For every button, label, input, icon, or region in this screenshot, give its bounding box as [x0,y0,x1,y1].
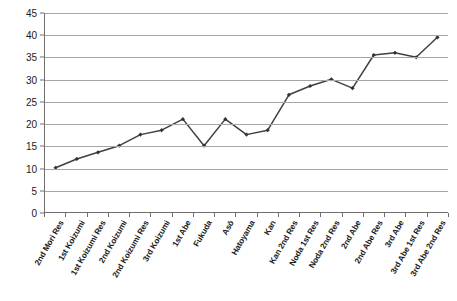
x-axis-tick-label: 3rd Abe [383,219,406,249]
x-axis-tick-label: Kan [263,219,278,237]
x-axis-tick-label: 1st Abe [171,219,193,248]
y-axis-tick-label: 25 [26,96,37,107]
x-axis-tick-label: 2nd Abe [340,219,363,251]
x-axis-tick-mark [427,213,428,217]
y-axis-tick-label: 0 [31,208,37,219]
data-point-marker [308,84,312,88]
y-axis-tick-label: 30 [26,74,37,85]
x-axis-tick-mark [87,213,88,217]
gridline [45,57,448,58]
gridline [45,169,448,170]
gridline [45,80,448,81]
x-axis-tick-mark [363,213,364,217]
x-axis-tick-label: Asō [220,219,235,237]
x-axis-tick-mark [129,213,130,217]
gridline [45,191,448,192]
line-series-svg [45,13,448,212]
y-axis-tick-label: 40 [26,30,37,41]
gridline [45,13,448,14]
y-axis-tick-label: 20 [26,119,37,130]
y-axis-tick-label: 10 [26,163,37,174]
gridline [45,35,448,36]
x-axis-tick-mark [44,213,45,217]
gridline [45,146,448,147]
data-point-marker [96,150,100,154]
plot-area [44,13,448,213]
gridline [45,124,448,125]
x-axis-tick-mark [384,213,385,217]
x-axis-tick-mark [235,213,236,217]
y-axis-tick-label: 35 [26,52,37,63]
y-axis-tick-label: 15 [26,141,37,152]
x-axis-tick-mark [448,213,449,217]
x-axis-tick-mark [150,213,151,217]
x-axis-tick-label: Fukuda [192,219,214,248]
x-axis-tick-mark [108,213,109,217]
y-axis: 051015202530354045 [0,0,44,214]
x-axis-tick-mark [320,213,321,217]
x-axis-tick-mark [405,213,406,217]
gridline [45,102,448,103]
x-axis-tick-mark [299,213,300,217]
y-axis-tick-label: 5 [31,185,37,196]
x-axis-tick-mark [65,213,66,217]
chart-container: 051015202530354045 2nd Mori Res1st Koizu… [0,0,457,301]
x-axis-tick-mark [214,213,215,217]
x-axis-tick-mark [172,213,173,217]
x-axis-tick-mark [278,213,279,217]
x-axis: 2nd Mori Res1st Koizumi1st Koizumi Res2n… [44,213,448,301]
data-point-marker [75,157,79,161]
x-axis-tick-mark [257,213,258,217]
y-axis-tick-label: 45 [26,8,37,19]
x-axis-tick-mark [193,213,194,217]
data-point-marker [393,51,397,55]
x-axis-tick-mark [342,213,343,217]
